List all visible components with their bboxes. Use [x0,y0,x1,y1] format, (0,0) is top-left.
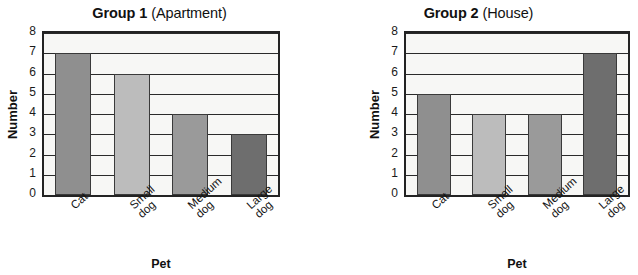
x-axis-label: Pet [42,257,280,271]
chart-title-strong: Group 2 [424,5,479,21]
gridline [406,33,628,34]
column-separator [114,33,115,74]
y-axis-tick-1: 1 [382,167,398,179]
y-axis-tick-7: 7 [382,45,398,57]
column-separator [562,33,563,114]
bar-small-dog [114,74,150,196]
column-separator [267,33,268,134]
chart-group-1: Group 1 (Apartment) Number CatSmalldogMe… [0,0,319,275]
y-axis-tick-2: 2 [382,147,398,159]
y-axis-tick-7: 7 [20,45,36,57]
y-axis-tick-4: 4 [382,106,398,118]
x-axis-label: Pet [404,257,630,271]
chart-title-light: (Apartment) [151,5,226,21]
y-axis-tick-5: 5 [20,86,36,98]
y-axis-tick-8: 8 [20,25,36,37]
y-axis-tick-5: 5 [382,86,398,98]
bar-cat [55,53,91,195]
y-axis-tick-0: 0 [20,187,36,199]
plot-area-group-1 [42,31,280,197]
column-separator [231,33,232,134]
y-axis-tick-8: 8 [382,25,398,37]
chart-title-strong: Group 1 [92,5,147,21]
y-axis-tick-3: 3 [20,126,36,138]
bar-large-dog [583,53,617,195]
y-axis-tick-3: 3 [382,126,398,138]
chart-title-light: (House) [482,5,533,21]
column-separator [583,33,584,53]
y-axis-tick-4: 4 [20,106,36,118]
column-separator [91,33,92,53]
bar-chart-pair: Group 1 (Apartment) Number CatSmalldogMe… [0,0,638,275]
y-axis-tick-6: 6 [382,66,398,78]
column-separator [617,33,618,53]
column-separator [506,33,507,114]
column-separator [55,33,56,53]
bar-cat [417,94,451,195]
column-separator [472,33,473,114]
bar-medium-dog [528,114,562,195]
bar-small-dog [472,114,506,195]
gridline [44,33,278,34]
column-separator [150,33,151,74]
chart-title-group-2: Group 2 (House) [319,4,638,22]
column-separator [417,33,418,94]
plot-area-group-2 [404,31,630,197]
chart-group-2: Group 2 (House) Number CatSmalldogMedium… [319,0,638,275]
y-axis-tick-6: 6 [20,66,36,78]
column-separator [172,33,173,114]
column-separator [208,33,209,114]
y-axis-tick-2: 2 [20,147,36,159]
column-separator [528,33,529,114]
y-axis-tick-0: 0 [382,187,398,199]
chart-title-group-1: Group 1 (Apartment) [0,4,319,22]
y-axis-tick-1: 1 [20,167,36,179]
bar-medium-dog [172,114,208,195]
column-separator [451,33,452,94]
